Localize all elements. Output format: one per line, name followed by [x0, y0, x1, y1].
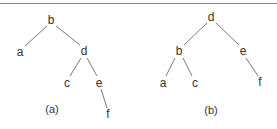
tree-b-node-a: a	[160, 77, 167, 89]
edge-a-e-f	[101, 89, 107, 108]
tree-a-node-d: d	[81, 45, 88, 57]
tree-b-node-f: f	[258, 76, 261, 88]
tree-a-caption: (a)	[45, 104, 58, 115]
edge-b-d-e	[216, 23, 239, 45]
tree-a-node-c: c	[64, 77, 70, 89]
edge-b-b-a	[166, 58, 175, 76]
tree-b-node-e: e	[240, 45, 247, 57]
tree-b-node-b: b	[176, 45, 183, 57]
edge-a-b-d	[56, 26, 80, 45]
tree-b-node-c: c	[192, 77, 198, 89]
tree-a-node-b: b	[48, 14, 55, 26]
tree-a-node-e: e	[96, 77, 103, 89]
edge-b-d-b	[184, 23, 207, 45]
tree-a-node-a: a	[17, 46, 24, 58]
tree-b-caption: (b)	[204, 105, 217, 116]
edge-a-d-e	[87, 58, 97, 76]
tree-edges	[0, 0, 277, 129]
edge-a-b-a	[25, 26, 47, 46]
tree-a-node-f: f	[106, 108, 109, 120]
tree-b-node-d: d	[208, 11, 215, 23]
edge-b-e-f	[246, 58, 258, 76]
edge-b-b-c	[183, 58, 192, 76]
edge-a-d-c	[70, 58, 81, 76]
